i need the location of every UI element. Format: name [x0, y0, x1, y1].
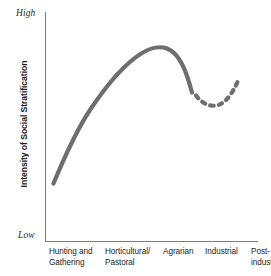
x-category-line-2: Gathering [49, 258, 93, 269]
y-axis-title: Intensity of Social Stratification [19, 49, 29, 199]
social-stratification-chart: High Low Intensity of Social Stratificat… [0, 0, 271, 276]
chart-plot-area [0, 0, 271, 276]
x-category-line-1: Agrarian [163, 247, 194, 258]
x-axis-category-labels: Hunting and Gathering Horticultural/ Pas… [45, 247, 259, 275]
x-category-line-2: industrial [251, 258, 271, 269]
x-category-line-1: Industrial [205, 247, 238, 258]
x-category-line-1: Horticultural/ [105, 247, 150, 258]
x-category-line-2: Pastoral [105, 258, 150, 269]
x-category-line-1: Hunting and [49, 247, 93, 258]
solid-trend-curve [54, 47, 193, 183]
x-category-industrial: Industrial [205, 247, 238, 258]
x-category-line-1: Post- [251, 247, 271, 258]
y-axis-high-label: High [16, 8, 35, 18]
y-axis-low-label: Low [18, 230, 35, 240]
x-category-hunting-and-gathering: Hunting and Gathering [49, 247, 93, 268]
x-category-agrarian: Agrarian [163, 247, 194, 258]
x-category-post-industrial: Post- industrial [251, 247, 271, 268]
dashed-projection-curve [196, 78, 240, 106]
x-category-horticultural-pastoral: Horticultural/ Pastoral [105, 247, 150, 268]
